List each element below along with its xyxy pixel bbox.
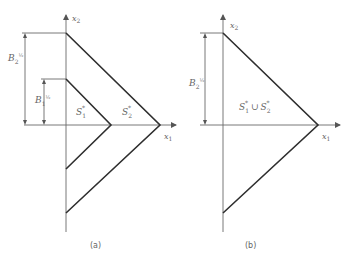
x2-axis-label-a: x2 <box>72 14 81 24</box>
caption-a: (a) <box>90 241 101 250</box>
region-label-union: S1*∪S2* <box>239 99 271 114</box>
region-boundary-s1 <box>66 79 111 169</box>
diagram-canvas: x2 x1 B2½ B1½ S1* S2* (a) x2 x1 B2½ S1*∪… <box>0 0 353 264</box>
dim-label-b2: B2½ <box>7 52 23 65</box>
region-label-s1: S1* <box>76 104 86 119</box>
region-boundary-union <box>223 33 318 213</box>
dim-label-b1: B1½ <box>34 94 50 107</box>
caption-b: (b) <box>245 241 256 250</box>
x1-axis-label-b: x1 <box>322 132 330 142</box>
panel-a: x2 x1 B2½ B1½ S1* S2* (a) <box>7 14 176 250</box>
panel-b: x2 x1 B2½ S1*∪S2* (b) <box>188 15 340 250</box>
x1-axis-label-a: x1 <box>164 132 172 142</box>
region-label-s2: S2* <box>122 104 132 119</box>
region-boundary-s2 <box>66 33 160 213</box>
x2-axis-label-b: x2 <box>230 21 239 31</box>
dim-label-b2-b: B2½ <box>188 77 204 90</box>
